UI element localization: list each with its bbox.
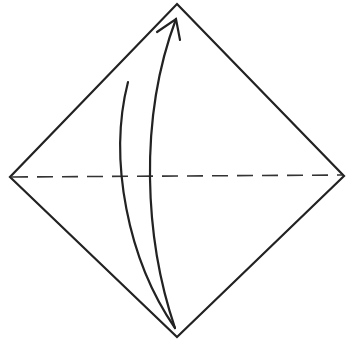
- paper-diamond: [10, 4, 344, 337]
- diagram-canvas: [0, 0, 352, 352]
- arrow-outer-curve: [150, 19, 176, 328]
- fold-line-dashed: [12, 175, 342, 177]
- origami-diagram: square paper (diamond orientation) valle…: [0, 0, 352, 352]
